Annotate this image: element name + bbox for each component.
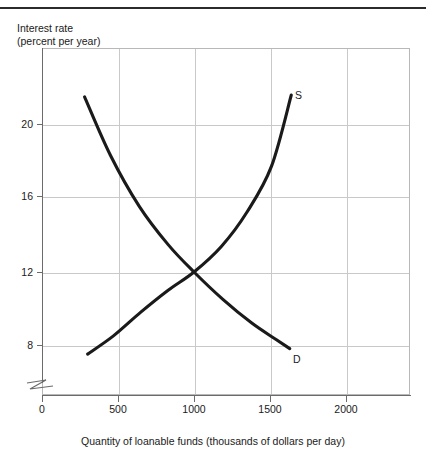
gridline-vertical-1000 (195, 49, 196, 394)
x-tick-mark-0 (42, 396, 43, 402)
y-axis-label: Interest rate (percent per year) (17, 22, 100, 48)
y-axis-label-line2: (percent per year) (17, 35, 100, 48)
demand-curve-label: D (293, 353, 301, 365)
x-tick-mark-1500 (270, 396, 271, 402)
x-tick-label-1000: 1000 (174, 403, 214, 415)
header-divider (0, 7, 426, 9)
x-tick-label-500: 500 (98, 403, 138, 415)
y-tick-label-16: 16 (11, 190, 33, 202)
x-tick-mark-2000 (346, 396, 347, 402)
supply-curve-label: S (295, 89, 302, 101)
x-tick-label-0: 0 (22, 403, 62, 415)
y-tick-label-12: 12 (11, 266, 33, 278)
gridline-vertical-2000 (347, 49, 348, 394)
y-tick-mark-16 (37, 196, 43, 197)
axis-break-icon (26, 372, 60, 398)
y-tick-label-20: 20 (11, 118, 33, 130)
x-axis-line (42, 395, 411, 396)
gridline-horizontal-8 (43, 346, 409, 347)
gridline-vertical-1500 (271, 49, 272, 394)
x-tick-label-2000: 2000 (326, 403, 366, 415)
x-axis-label: Quantity of loanable funds (thousands of… (0, 435, 426, 447)
y-axis-label-line1: Interest rate (17, 22, 100, 35)
plot-area (42, 48, 410, 395)
y-tick-mark-12 (37, 272, 43, 273)
x-tick-mark-500 (118, 396, 119, 402)
gridline-vertical-500 (119, 49, 120, 394)
y-axis-line (42, 48, 43, 383)
y-tick-mark-20 (37, 124, 43, 125)
y-tick-mark-8 (37, 345, 43, 346)
gridline-horizontal-16 (43, 197, 409, 198)
y-tick-label-8: 8 (11, 339, 33, 351)
x-tick-mark-1000 (194, 396, 195, 402)
x-tick-label-1500: 1500 (250, 403, 290, 415)
gridline-horizontal-12 (43, 273, 409, 274)
gridline-horizontal-20 (43, 125, 409, 126)
